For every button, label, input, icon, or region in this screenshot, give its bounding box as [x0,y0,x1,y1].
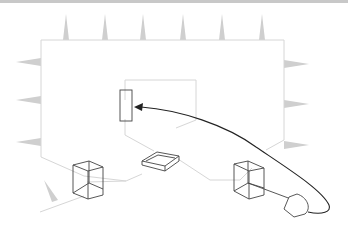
floor-left-diagonal [40,196,84,212]
outer-wall [41,40,284,150]
center-flat-tray[interactable] [142,152,179,171]
arrowhead-icon [134,103,143,111]
room-outline [40,40,284,212]
spike-left-1 [16,58,41,66]
inner-left-diagonal [125,119,154,151]
spike-right-1 [284,60,309,68]
spike-top-2 [102,14,108,40]
spike-lower-left [44,180,58,202]
right-spikes [284,60,309,149]
target-panel[interactable] [120,90,132,121]
spike-top-4 [180,14,186,40]
inner-wall [125,80,196,128]
spike-left-2 [16,96,41,104]
left-wall [41,40,142,181]
spike-top-3 [140,14,146,40]
spike-top-1 [63,14,69,40]
spike-left-3 [16,138,41,146]
left-spikes [16,58,41,146]
diagram-canvas [0,0,348,238]
plug-cable [248,183,291,199]
spike-top-6 [259,14,265,40]
spike-top-5 [219,14,225,40]
spike-right-2 [284,100,309,108]
spike-right-3 [284,141,309,149]
top-spikes [63,14,265,40]
left-tall-box[interactable] [73,161,103,199]
left-box-floor-line [87,181,126,182]
